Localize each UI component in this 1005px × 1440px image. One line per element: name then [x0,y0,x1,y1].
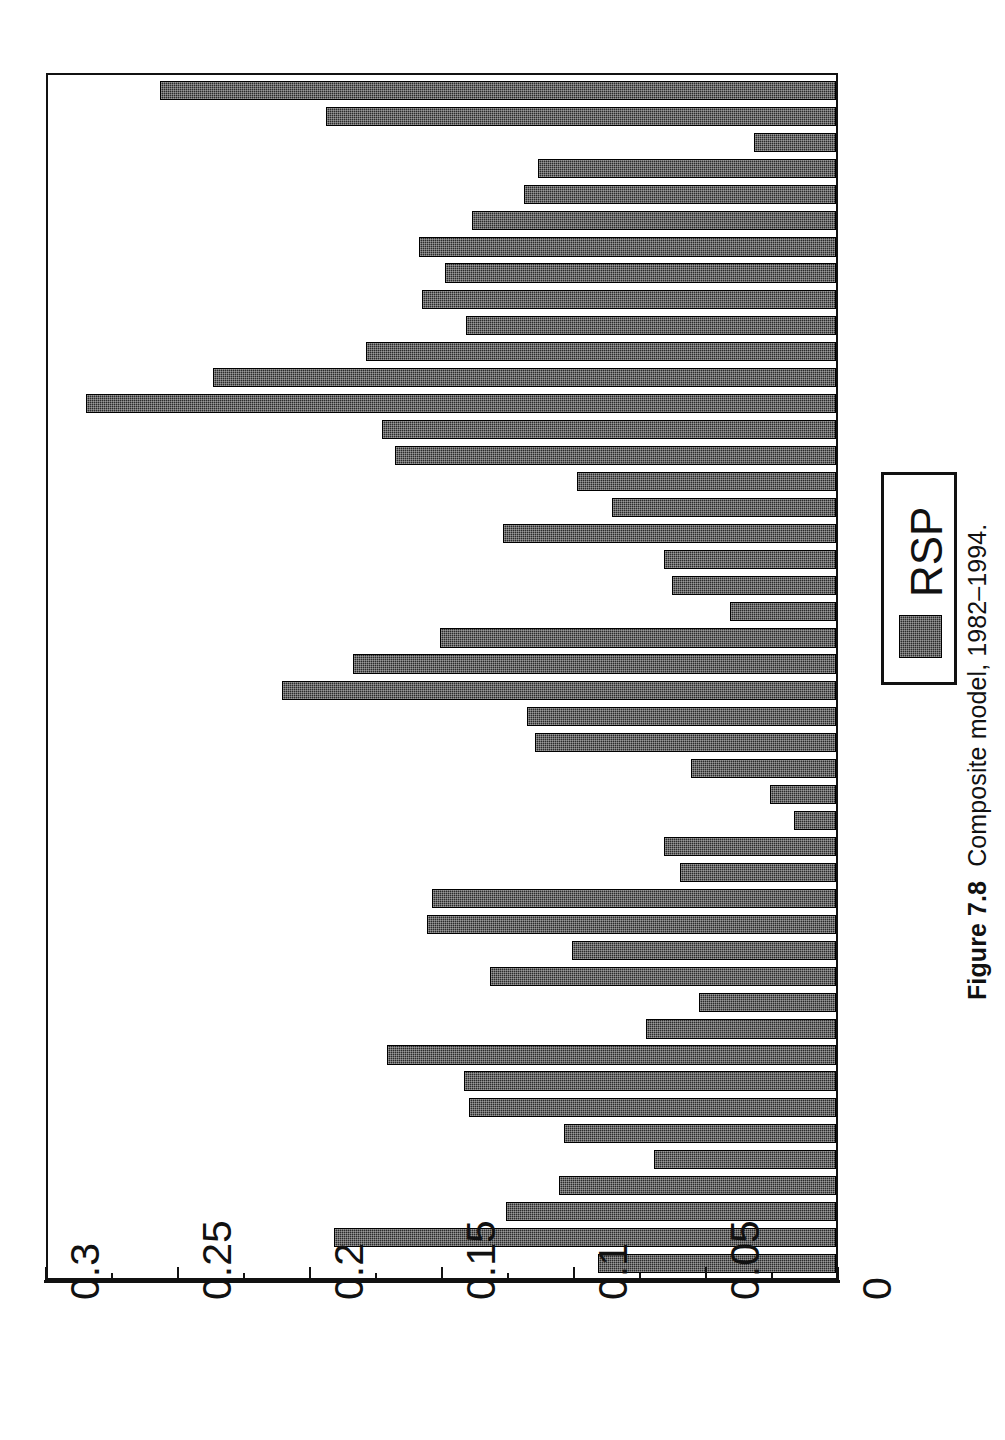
bar-row [46,368,836,387]
bar-row [46,316,836,335]
legend-box: RSP [881,472,957,685]
bar-row [46,811,836,830]
axis-tick-label: 0.15 [458,1220,505,1300]
axis-tick-major [45,1267,47,1280]
bar-row [46,1124,836,1143]
bar [794,811,836,830]
bar-row [46,837,836,856]
axis-tick-label: 0.3 [62,1243,109,1300]
bar-row [46,550,836,569]
bar-row [46,237,836,256]
bar [559,1176,836,1195]
bar [691,759,836,778]
bar-row [46,524,836,543]
bar [464,1071,836,1090]
axis-tick-major [441,1267,443,1280]
bar-row [46,1045,836,1064]
bar-row [46,707,836,726]
axis-tick-major [705,1267,707,1280]
bar [86,394,836,413]
bar [612,498,836,517]
bar-row [46,576,836,595]
bar-row [46,602,836,621]
figure-page: RSP Figure 7.8 Composite model, 1982–199… [0,0,1005,1440]
bar-row [46,681,836,700]
bar [469,1098,836,1117]
axis-tick-label: 0.1 [590,1243,637,1300]
bar [506,1202,836,1221]
bar [527,707,836,726]
axis-line [44,1280,840,1283]
bar-row [46,342,836,361]
bar-series-rsp [48,75,836,1278]
axis-tick-major [837,1267,839,1280]
bar-row [46,290,836,309]
bar-row [46,263,836,282]
axis-tick-minor [375,1273,377,1280]
bar-row [46,211,836,230]
bar-row [46,185,836,204]
bar [282,681,836,700]
bar [427,915,836,934]
bar [160,81,836,100]
bar [382,420,836,439]
bar [654,1150,836,1169]
bar-row [46,1071,836,1090]
bar [672,576,836,595]
bar [572,941,836,960]
bar-row [46,1176,836,1195]
bar-row [46,1098,836,1117]
bar [730,602,836,621]
figure-caption: Figure 7.8 Composite model, 1982–1994. [963,524,992,1000]
bar-row [46,81,836,100]
bar-row [46,941,836,960]
bar [466,316,836,335]
bar [699,993,836,1012]
axis-tick-label: 0.05 [722,1220,769,1300]
bar [538,159,836,178]
axis-tick-major [177,1267,179,1280]
bar-row [46,1228,836,1247]
bar [432,889,836,908]
bar [664,550,836,569]
axis-tick-minor [111,1273,113,1280]
bar-row [46,654,836,673]
bar-row [46,967,836,986]
legend-swatch-rsp [899,615,942,658]
bar [419,237,836,256]
bar-row [46,733,836,752]
bar-row [46,159,836,178]
bar-row [46,498,836,517]
axis-tick-minor [639,1273,641,1280]
bar-row [46,420,836,439]
bar [535,733,836,752]
rotated-figure-area: RSP Figure 7.8 Composite model, 1982–199… [0,0,1005,1440]
bar [754,133,836,152]
axis-tick-minor [243,1273,245,1280]
bar [770,785,836,804]
bar-row [46,446,836,465]
bar-row [46,785,836,804]
bar-row [46,628,836,647]
bar-row [46,889,836,908]
bar [445,263,836,282]
axis-tick-major [573,1267,575,1280]
bar-row [46,759,836,778]
bar [422,290,836,309]
bar-row [46,915,836,934]
bar [524,185,836,204]
bar-row [46,472,836,491]
value-axis [46,1280,838,1306]
bar [577,472,836,491]
axis-tick-label: 0.25 [194,1220,241,1300]
bar-row [46,993,836,1012]
figure-caption-label: Figure 7.8 [963,881,991,1000]
bar [440,628,836,647]
bar [472,211,836,230]
bar [564,1124,836,1143]
bar-row [46,1202,836,1221]
bar [490,967,836,986]
axis-tick-minor [771,1273,773,1280]
axis-tick-label: 0 [854,1277,901,1300]
bar [366,342,836,361]
